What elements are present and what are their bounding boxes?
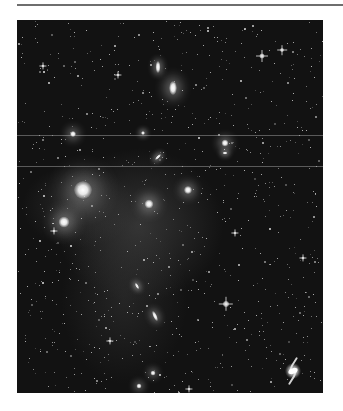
galaxy-cluster-photo [17,20,323,393]
galaxy [137,384,142,389]
star-spike [54,227,55,234]
galaxy [169,81,177,95]
background-star-field [17,20,323,393]
scan-artifact-line [17,135,323,136]
star-spike [282,45,283,55]
star-spike [118,71,119,78]
galaxy [145,200,154,209]
star-spike [303,254,304,261]
barred-spiral-galaxy [275,353,311,389]
galaxy [74,181,92,199]
star-spike [110,337,111,344]
galaxy [184,186,192,194]
galaxy [222,140,229,147]
star-spike [262,50,263,62]
galaxy [59,217,70,228]
galaxy [223,152,228,155]
scan-artifact-line [17,166,323,167]
top-rule-divider [17,4,343,6]
star-spike [189,385,190,392]
galaxy [156,61,161,73]
galaxy [151,371,156,376]
galaxy [141,131,145,135]
star-spike [43,62,44,69]
galaxy [70,131,76,137]
star-spike [226,297,227,311]
star-spike [235,229,236,236]
